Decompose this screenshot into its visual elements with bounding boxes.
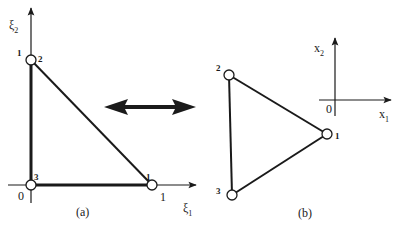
node-b-1-label: 1 [335,131,340,141]
x2-axis-label: x2 [314,41,324,58]
node-a-2-label: 2 [38,54,43,64]
tick-vertical-1: 1 [17,48,22,58]
diagram-canvas: ξ2 1 2 3 0 1 1 ξ1 (a) 2 1 3 (b) x2 0 x1 [0,0,397,229]
double-arrow-icon [104,99,196,115]
node-b-2 [224,70,234,80]
node-b-3-label: 3 [216,186,221,196]
triangle-mapping-diagram: ξ2 1 2 3 0 1 1 ξ1 (a) 2 1 3 (b) x2 0 x1 [0,0,397,229]
x1-axis-label: x1 [379,107,389,124]
node-a-3-label: 3 [34,172,39,182]
origin-b-label: 0 [326,102,332,116]
node-b-3 [227,190,237,200]
caption-a: (a) [76,205,89,219]
panel-a-reference-element: ξ2 1 2 3 0 1 1 ξ1 (a) [8,8,196,219]
edge-b-2-1 [229,75,327,134]
tick-horizontal-1: 1 [160,190,166,204]
origin-a-label: 0 [18,189,24,203]
caption-b: (b) [298,206,312,220]
xi1-axis-label: ξ1 [183,201,192,218]
node-a-2 [26,55,36,65]
edge-b-3-2 [229,75,232,195]
node-a-1-label: 1 [146,172,151,182]
edge-b-1-3 [232,134,327,195]
node-b-1 [322,129,332,139]
node-b-2-label: 2 [216,63,221,73]
edge-2-1 [31,60,152,185]
xi2-axis-label: ξ2 [9,18,18,35]
panel-b-physical-element: 2 1 3 (b) x2 0 x1 [216,38,391,220]
